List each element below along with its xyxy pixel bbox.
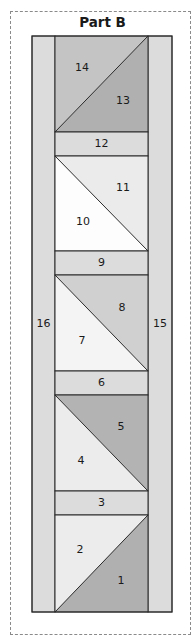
square-14-13: 14 13 xyxy=(55,36,148,132)
sashing-strip-3: 3 xyxy=(55,491,148,515)
square-8-7: 8 7 xyxy=(55,275,148,371)
quilt-block-diagram: 16 15 14 13 12 11 10 9 8 7 xyxy=(0,0,195,643)
side-strip-left: 16 xyxy=(32,36,55,612)
sashing-strip-9: 9 xyxy=(55,251,148,275)
piece-1-label: 1 xyxy=(118,574,125,587)
sashing-strip-6: 6 xyxy=(55,371,148,395)
sashing-strip-12-label: 12 xyxy=(95,137,109,150)
sashing-strip-6-label: 6 xyxy=(98,376,105,389)
piece-4-label: 4 xyxy=(78,454,85,467)
side-strip-right-label: 15 xyxy=(153,317,167,330)
piece-14-label: 14 xyxy=(75,61,89,74)
square-11-10: 11 10 xyxy=(55,156,148,251)
sashing-strip-12: 12 xyxy=(55,132,148,156)
piece-8-label: 8 xyxy=(119,301,126,314)
side-strip-right: 15 xyxy=(148,36,172,612)
side-strip-left-label: 16 xyxy=(37,317,51,330)
sashing-strip-9-label: 9 xyxy=(98,256,105,269)
square-5-4: 5 4 xyxy=(55,395,148,491)
piece-7-label: 7 xyxy=(79,334,86,347)
piece-2-label: 2 xyxy=(77,543,84,556)
sashing-strip-3-label: 3 xyxy=(98,496,105,509)
piece-11-label: 11 xyxy=(116,181,130,194)
square-2-1: 2 1 xyxy=(55,515,148,612)
piece-13-label: 13 xyxy=(116,94,130,107)
piece-5-label: 5 xyxy=(118,420,125,433)
piece-10-label: 10 xyxy=(76,215,90,228)
